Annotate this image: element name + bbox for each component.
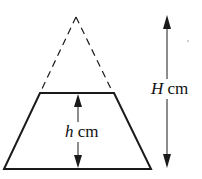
dashed-cone-left-edge [40, 17, 76, 93]
stray-dot [187, 40, 188, 41]
H-variable: H [151, 79, 163, 98]
h-arrow-down-icon [74, 155, 82, 168]
H-unit: cm [168, 79, 189, 98]
dashed-cone-right-edge [76, 17, 113, 93]
H-label: H cm [150, 79, 189, 99]
h-arrow-up-icon [74, 94, 82, 107]
h-variable: h [65, 122, 74, 141]
H-arrow-down-icon [163, 154, 171, 168]
h-label: h cm [64, 122, 100, 142]
H-arrow-up-icon [163, 15, 171, 29]
h-unit: cm [78, 122, 99, 141]
